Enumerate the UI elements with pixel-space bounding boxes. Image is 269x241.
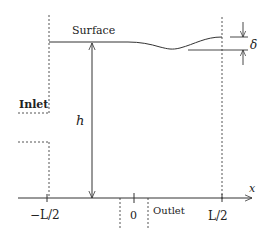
inlet-label: Inlet <box>19 98 49 111</box>
x-axis-label: x <box>249 182 256 195</box>
amplitude-reference-lines <box>188 37 248 50</box>
amplitude-label: δ <box>250 38 257 52</box>
height-label: h <box>76 113 84 128</box>
channel-flow-diagram: Surface Inlet h δ x −L/2 0 Outlet L/2 <box>0 0 269 241</box>
free-surface <box>49 37 222 49</box>
tick-label-minus-half-l: −L/2 <box>30 208 60 222</box>
tick-label-half-l: L/2 <box>208 209 228 223</box>
surface-label: Surface <box>72 24 115 37</box>
tick-label-origin: 0 <box>130 209 137 222</box>
outlet-label: Outlet <box>153 205 185 216</box>
